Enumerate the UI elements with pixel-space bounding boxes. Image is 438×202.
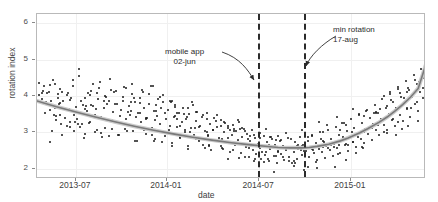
data-point xyxy=(145,118,147,120)
y-tick-mark xyxy=(32,168,35,169)
data-point xyxy=(127,111,129,113)
data-point xyxy=(229,151,231,153)
data-point xyxy=(148,103,150,105)
data-point xyxy=(336,116,338,118)
data-point xyxy=(264,154,266,156)
data-point xyxy=(84,97,86,99)
data-point xyxy=(171,145,173,147)
data-point xyxy=(231,134,233,136)
data-point xyxy=(350,118,352,120)
data-point xyxy=(129,114,131,116)
data-point xyxy=(49,141,51,143)
x-tick-mark xyxy=(75,178,76,181)
data-point xyxy=(375,111,377,113)
y-tick-mark xyxy=(32,131,35,132)
data-point xyxy=(394,125,396,127)
data-point xyxy=(227,158,229,160)
data-point xyxy=(238,157,240,159)
data-point xyxy=(139,97,141,99)
data-point xyxy=(361,122,363,124)
data-point xyxy=(402,120,404,122)
data-point xyxy=(101,117,103,119)
data-point xyxy=(392,101,394,103)
data-point xyxy=(89,94,91,96)
data-point xyxy=(280,139,282,141)
data-point xyxy=(103,107,105,109)
data-point xyxy=(352,108,354,110)
data-point xyxy=(254,137,256,139)
data-point xyxy=(96,92,98,94)
data-point xyxy=(38,82,40,84)
data-point xyxy=(198,126,200,128)
data-point xyxy=(83,137,85,139)
data-point xyxy=(198,139,200,141)
data-point xyxy=(414,103,416,105)
x-tick-label: 2015-01 xyxy=(320,180,380,190)
data-point xyxy=(383,124,385,126)
data-point xyxy=(94,114,96,116)
data-point xyxy=(406,91,408,93)
data-point xyxy=(315,142,317,144)
data-point xyxy=(143,107,145,109)
data-point xyxy=(202,144,204,146)
data-point xyxy=(265,151,267,153)
data-point xyxy=(405,80,407,82)
data-point xyxy=(49,84,51,86)
data-point xyxy=(371,139,373,141)
data-point xyxy=(417,120,419,122)
data-point xyxy=(386,117,388,119)
data-point xyxy=(181,121,183,123)
data-point xyxy=(269,148,271,150)
data-point xyxy=(327,144,329,146)
data-point xyxy=(119,122,121,124)
data-point xyxy=(145,133,147,135)
data-point xyxy=(179,125,181,127)
data-point xyxy=(232,124,234,126)
data-point xyxy=(195,120,197,122)
data-point xyxy=(332,155,334,157)
data-point xyxy=(212,129,214,131)
data-point xyxy=(157,98,159,100)
data-point xyxy=(419,91,421,93)
data-point xyxy=(208,144,210,146)
data-point xyxy=(330,138,332,140)
y-tick-label: 6 xyxy=(6,17,28,26)
data-point xyxy=(134,140,136,142)
data-point xyxy=(153,140,155,142)
data-point xyxy=(238,121,240,123)
data-point xyxy=(75,106,77,108)
data-point xyxy=(333,143,335,145)
data-point xyxy=(377,112,379,114)
chart-root: rotation index 65432 2013-072014-012014-… xyxy=(0,0,438,202)
data-point xyxy=(111,119,113,121)
data-point xyxy=(216,126,218,128)
data-point xyxy=(176,118,178,120)
data-point xyxy=(355,146,357,148)
data-point xyxy=(268,144,270,146)
data-point xyxy=(77,123,79,125)
data-point xyxy=(280,153,282,155)
data-point xyxy=(363,142,365,144)
data-point xyxy=(263,161,265,163)
data-point xyxy=(106,119,108,121)
data-point xyxy=(399,114,401,116)
data-point xyxy=(92,105,94,107)
data-point xyxy=(299,136,301,138)
data-point xyxy=(358,113,360,115)
data-point xyxy=(370,127,372,129)
data-point xyxy=(220,125,222,127)
data-point xyxy=(395,134,397,136)
annotation-min-rotation-line1: min rotation xyxy=(333,25,375,35)
data-point xyxy=(408,89,410,91)
data-point xyxy=(417,110,419,112)
data-point xyxy=(108,100,110,102)
data-point xyxy=(143,129,145,131)
data-point xyxy=(67,92,69,94)
data-point xyxy=(324,157,326,159)
data-point xyxy=(214,140,216,142)
data-point xyxy=(365,110,367,112)
data-point xyxy=(330,144,332,146)
data-point xyxy=(195,111,197,113)
data-point xyxy=(413,74,415,76)
data-point xyxy=(308,156,310,158)
